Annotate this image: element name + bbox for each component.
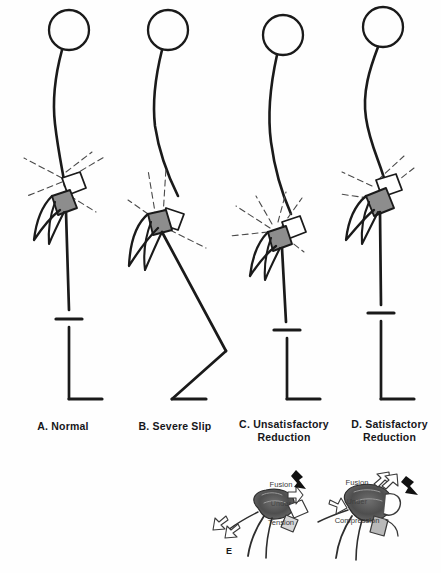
detail-caption-tension: Fusion Under Tension [250, 470, 312, 537]
caption-panel-b: B. Severe Slip [120, 420, 230, 433]
panel-e-label: E [226, 546, 232, 556]
tension-line-1: Fusion [250, 480, 312, 490]
tension-line-2: Under [250, 499, 312, 509]
caption-panel-c: C. Unsatisfactory Reduction [228, 418, 340, 444]
compression-line-2: Under [322, 497, 392, 507]
compression-line-3: Compression [322, 516, 392, 526]
tension-line-3: Tension [250, 518, 312, 528]
compression-load-arrow [401, 476, 418, 495]
detail-caption-compression: Fusion Under Compression [322, 468, 392, 535]
caption-panel-a: A. Normal [8, 420, 118, 433]
figure-root: A. Normal B. Severe Slip C. Unsatisfacto… [0, 0, 441, 573]
caption-panel-d: D. Satisfactory Reduction [338, 418, 441, 444]
compression-line-1: Fusion [322, 478, 392, 488]
